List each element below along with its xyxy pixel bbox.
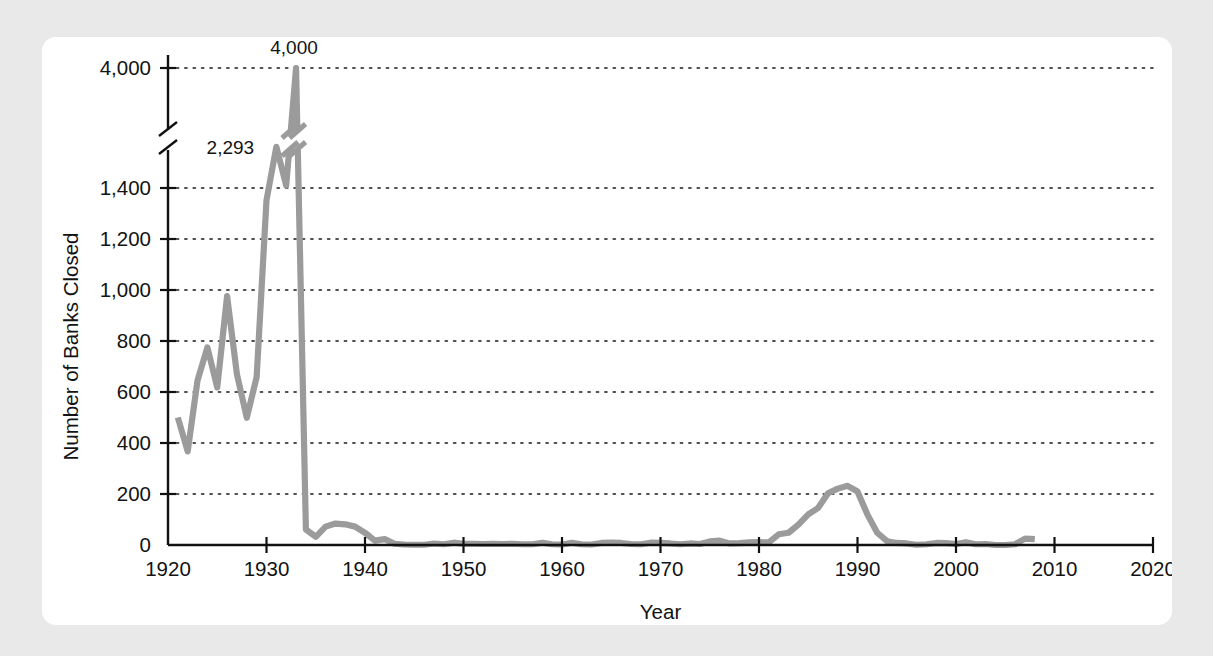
y-tick-label: 1,400: [100, 176, 151, 199]
x-tick-label: 1920: [145, 557, 191, 580]
y-tick-label: 1,000: [100, 278, 151, 301]
x-axis-title: Year: [640, 600, 682, 623]
data-annotation-1: 2,293: [207, 137, 255, 158]
data-line-segment-1: [291, 68, 298, 130]
y-tick-label: 800: [117, 329, 151, 352]
annotations: 4,0002,293: [207, 37, 318, 158]
x-tick-label: 1980: [736, 557, 782, 580]
data-line-segment-0: [178, 147, 289, 452]
y-tick-label: 600: [117, 380, 151, 403]
x-tick-label: 1930: [244, 557, 290, 580]
x-tick-label: 2010: [1032, 557, 1078, 580]
gridlines: [168, 68, 1153, 494]
axes: [159, 55, 1153, 553]
x-tick-label: 1990: [835, 557, 881, 580]
x-tick-label: 1970: [638, 557, 684, 580]
x-tick-label: 2020: [1130, 557, 1172, 580]
y-tick-label: 0: [140, 533, 151, 556]
data-series: [178, 68, 1035, 545]
figure-root: 02004006008001,0001,2001,4004,0001920193…: [0, 0, 1213, 656]
x-tick-label: 2000: [933, 557, 979, 580]
data-annotation-0: 4,000: [270, 37, 318, 58]
y-tick-label: 200: [117, 482, 151, 505]
y-tick-label: 1,200: [100, 227, 151, 250]
x-tick-label: 1940: [342, 557, 388, 580]
chart-card: 02004006008001,0001,2001,4004,0001920193…: [42, 37, 1172, 625]
x-tick-label: 1960: [539, 557, 585, 580]
y-axis-title: Number of Banks Closed: [59, 233, 82, 461]
y-tick-label: 400: [117, 431, 151, 454]
data-line-segment-2: [298, 150, 1035, 545]
x-tick-label: 1950: [441, 557, 487, 580]
line-chart-plot: 02004006008001,0001,2001,4004,0001920193…: [42, 37, 1172, 625]
y-tick-label: 4,000: [100, 56, 151, 79]
